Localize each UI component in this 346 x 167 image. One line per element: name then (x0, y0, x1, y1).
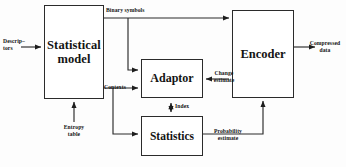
label-binary-symbols: Binary symbols (106, 7, 145, 14)
node-statistics[interactable]: Statistics (141, 116, 203, 156)
label-index: Index (175, 103, 189, 110)
node-adaptor[interactable]: Adaptor (141, 59, 203, 98)
label-descriptors: Descrip– tors (3, 38, 33, 52)
node-encoder[interactable]: Encoder (232, 10, 294, 98)
node-statistical-model[interactable]: Statistical model (44, 5, 104, 99)
label-probability-estimate: Probability estimate (207, 128, 249, 142)
label-change-estimate: Change estimate (208, 70, 240, 84)
edge-contexts-to-statistics (113, 88, 138, 134)
edge-binary-symbols-to-adaptor (128, 18, 138, 70)
label-contexts: Contexts (104, 84, 126, 91)
label-entropy-table: Entropy table (57, 124, 91, 138)
label-compressed-data: Compressed data (306, 40, 344, 54)
block-diagram-canvas: Statistical model Encoder Adaptor Statis… (0, 0, 346, 167)
